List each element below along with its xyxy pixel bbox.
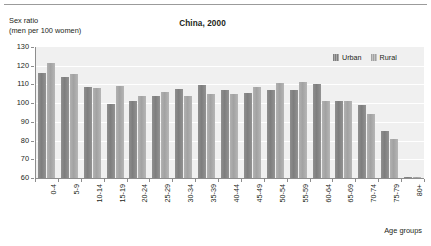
bar-group <box>198 47 215 178</box>
y-axis-tick: 130 <box>0 42 29 51</box>
bar-rural <box>344 101 352 178</box>
x-axis-tick-mark <box>58 179 59 182</box>
x-axis-tick-mark <box>81 179 82 182</box>
x-axis-title: Age groups <box>384 226 422 235</box>
bar-urban <box>358 105 366 178</box>
x-axis-tick-mark <box>332 179 333 182</box>
bar-group <box>290 47 307 178</box>
bar-urban <box>267 90 275 178</box>
bar-urban <box>129 101 137 178</box>
bar-group <box>267 47 284 178</box>
x-axis-tick-label: 25-29 <box>163 184 172 202</box>
bar-rural <box>299 82 307 178</box>
legend-swatch-urban-icon <box>333 54 339 61</box>
x-axis-tick-label: 20-24 <box>140 184 149 202</box>
y-axis-tick-label: 60 <box>1 173 29 182</box>
x-axis-tick-label: 65-69 <box>346 184 355 202</box>
bar-group <box>335 47 352 178</box>
bar-group <box>358 47 375 178</box>
bar-rural <box>276 83 284 178</box>
legend-label-rural: Rural <box>380 53 397 62</box>
bar-group <box>381 47 398 178</box>
bar-group <box>404 47 421 178</box>
bar-rural <box>70 74 78 178</box>
x-axis-tick-label: 35-39 <box>209 184 218 202</box>
bar-rural <box>413 177 421 178</box>
bar-rural <box>116 86 124 178</box>
bar-rural <box>47 63 55 178</box>
bar-urban <box>335 101 343 178</box>
top-divider <box>4 4 427 5</box>
x-axis-tick-label: 50-54 <box>278 184 287 202</box>
y-axis-tick-mark <box>31 122 34 123</box>
x-axis-tick-label: 40-44 <box>232 184 241 202</box>
y-axis-tick-label: 80 <box>1 136 29 145</box>
y-axis-tick-mark <box>31 84 34 85</box>
bar-urban <box>198 85 206 178</box>
x-axis-tick-mark <box>310 179 311 182</box>
y-axis-tick-mark <box>31 141 34 142</box>
legend-item-urban: Urban <box>333 53 362 62</box>
x-axis-tick-label: 60-64 <box>324 184 333 202</box>
x-axis-tick-mark <box>104 179 105 182</box>
x-axis-tick-mark <box>401 179 402 182</box>
x-axis-tick-label: 5-9 <box>72 184 81 194</box>
bar-group <box>313 47 330 178</box>
bar-rural <box>93 88 101 178</box>
bar-urban <box>38 73 46 178</box>
bar-urban <box>84 87 92 179</box>
y-axis-tick-label: 120 <box>1 61 29 70</box>
y-axis-tick-label: 70 <box>1 154 29 163</box>
chart-title-text: China, 2000 <box>179 19 226 28</box>
x-axis-tick-label: 70-74 <box>369 184 378 202</box>
x-axis-tick-mark <box>149 179 150 182</box>
x-axis-tick-label: 75-79 <box>392 184 401 202</box>
bar-urban <box>152 96 160 178</box>
bar-rural <box>184 96 192 178</box>
bar-rural <box>161 92 169 178</box>
y-axis-tick-mark <box>31 178 34 179</box>
bar-rural <box>367 114 375 178</box>
bar-rural <box>207 94 215 178</box>
y-axis-tick-label: 130 <box>1 42 29 51</box>
bar-group <box>244 47 261 178</box>
bar-urban <box>244 93 252 178</box>
bar-group <box>221 47 238 178</box>
x-axis-tick-label: 30-34 <box>186 184 195 202</box>
chart-legend: Urban Rural <box>333 53 397 62</box>
bar-rural <box>322 101 330 178</box>
bar-group <box>38 47 55 178</box>
x-axis-tick-mark <box>195 179 196 182</box>
x-axis-tick-label: 10-14 <box>95 184 104 202</box>
y-axis-tick: 90 <box>0 117 29 126</box>
y-axis-tick: 80 <box>0 136 29 145</box>
x-axis-tick-mark <box>264 179 265 182</box>
bar-group <box>84 47 101 178</box>
y-axis-tick: 70 <box>0 154 29 163</box>
y-axis-tick: 110 <box>0 79 29 88</box>
x-axis-tick-mark <box>355 179 356 182</box>
bar-group <box>129 47 146 178</box>
y-axis-tick-label: 100 <box>1 98 29 107</box>
x-axis-tick-label: 15-19 <box>118 184 127 202</box>
bar-urban <box>404 177 412 178</box>
bar-urban <box>313 84 321 178</box>
bar-urban <box>381 131 389 178</box>
x-axis-tick-label: 80+ <box>415 184 424 196</box>
x-axis-tick-mark <box>287 179 288 182</box>
chart-title: China, 2000 <box>0 19 431 28</box>
bar-rural <box>138 96 146 178</box>
legend-label-urban: Urban <box>342 53 362 62</box>
x-axis-tick-mark <box>127 179 128 182</box>
x-axis-tick-mark <box>241 179 242 182</box>
bar-urban <box>175 89 183 178</box>
x-axis-tick-mark <box>424 179 425 182</box>
bar-group <box>61 47 78 178</box>
x-axis-spine <box>35 178 424 179</box>
x-axis-tick-mark <box>218 179 219 182</box>
x-axis-tick-mark <box>35 179 36 182</box>
bar-group <box>107 47 124 178</box>
x-axis-tick-label: 45-49 <box>255 184 264 202</box>
y-axis-tick-mark <box>31 47 34 48</box>
bar-group <box>175 47 192 178</box>
